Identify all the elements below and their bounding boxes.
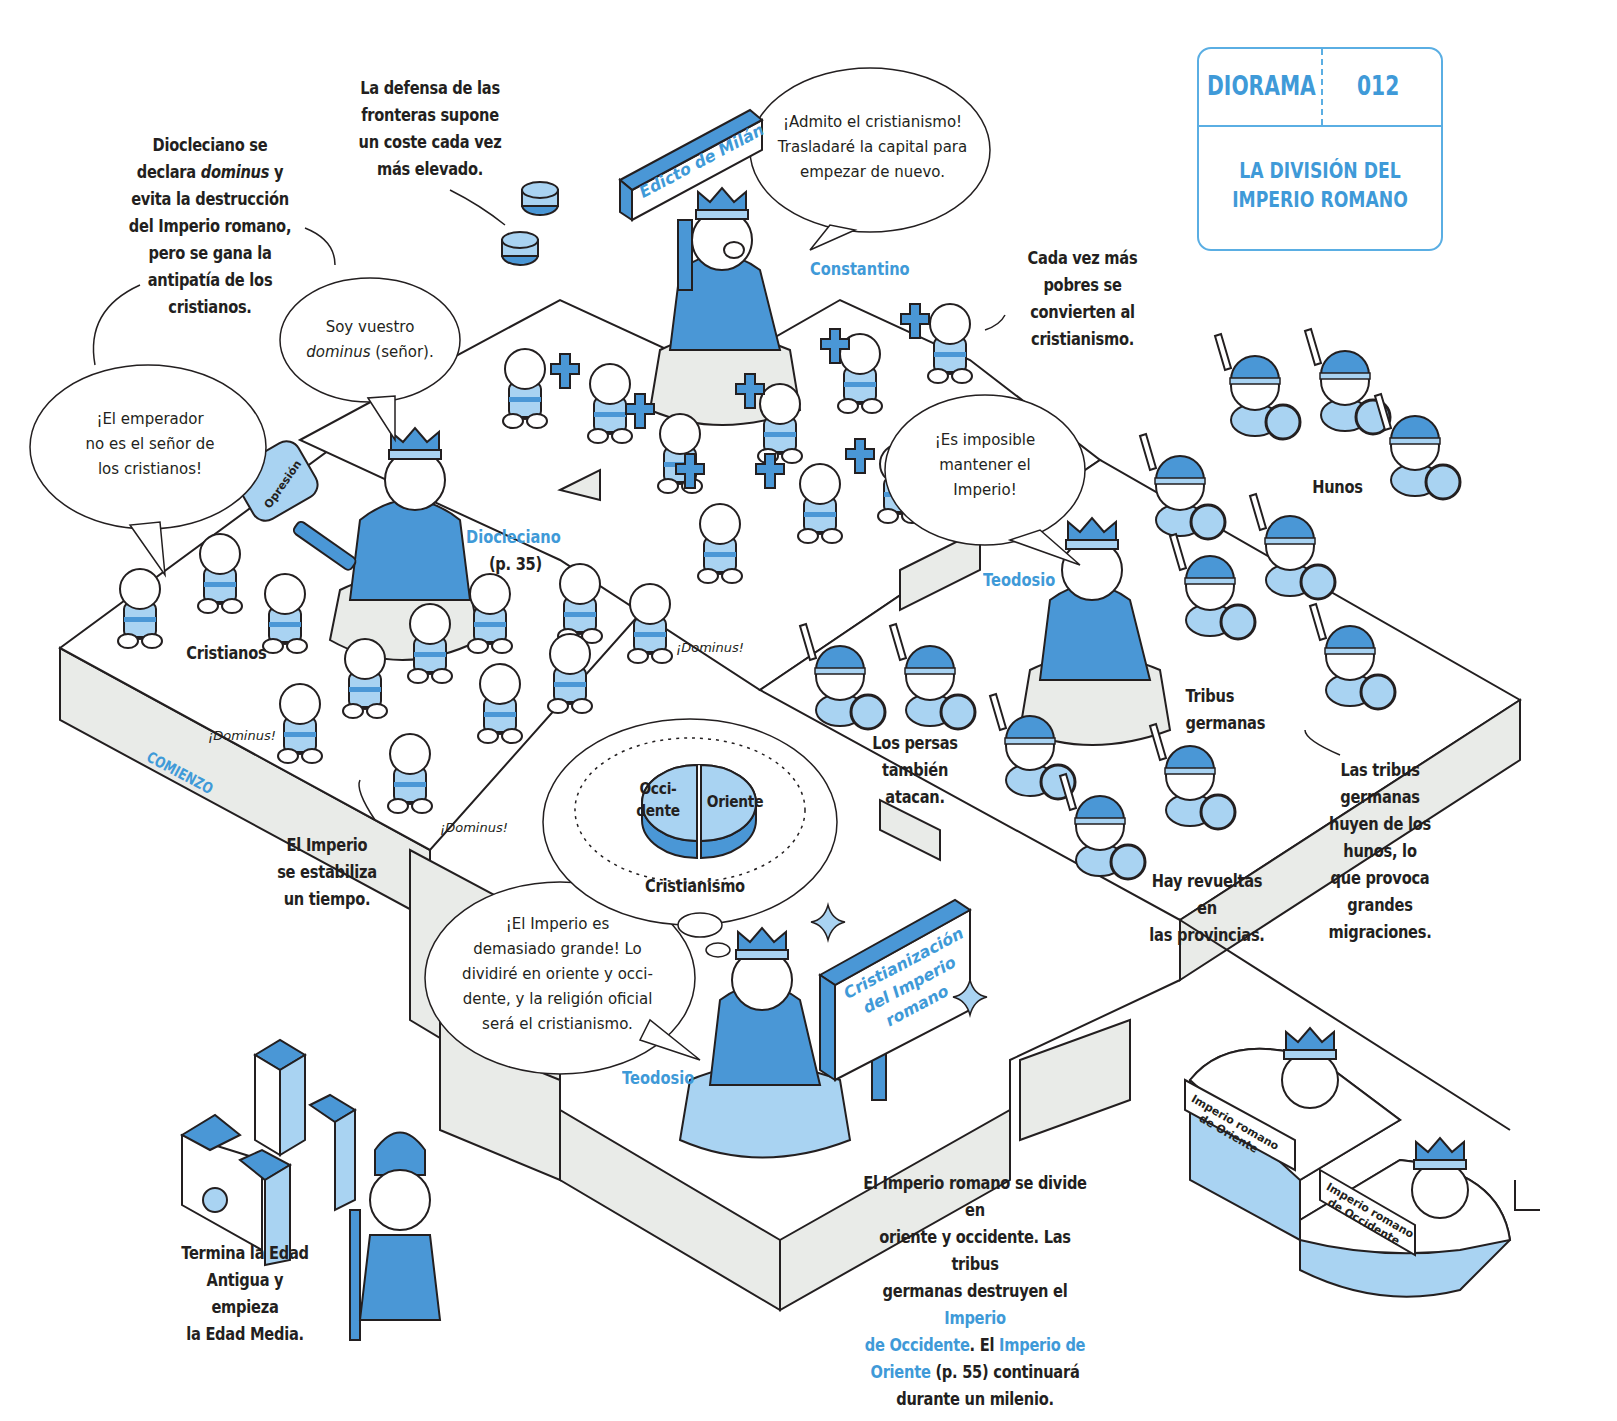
link-imperio-occidente: Imperio [944, 1308, 1006, 1328]
flying-money-icon [502, 182, 558, 265]
card-divider [1321, 49, 1323, 125]
label-teodosio-bottom: Teodosio [622, 1068, 694, 1088]
note-line: El Imperio [271, 832, 383, 859]
note-line: Oriente (p. 55) continuará [855, 1359, 1096, 1386]
note-line: La defensa de las [357, 75, 503, 102]
note-line: que provoca [1328, 865, 1431, 892]
note-line: germanas [1328, 784, 1431, 811]
note-line: Antigua y empieza [172, 1267, 318, 1321]
divided-empire-platforms [1185, 1028, 1510, 1297]
note-line: oriente y occidente. Las tribus [855, 1224, 1096, 1278]
shout-dominus: ¡Dominus! [208, 728, 276, 743]
note-line: Cada vez más [1024, 245, 1140, 272]
speech-line: dente, y la religión oficial [430, 987, 685, 1012]
note-line: pobres se [1024, 272, 1140, 299]
note-line: Diocleciano se [124, 132, 296, 159]
card-title-line: LA DIVISIÓN DEL [1221, 157, 1419, 186]
note-line: también atacan. [855, 757, 975, 811]
speech-teodosio-top: ¡Es imposible mantener el Imperio! [905, 428, 1065, 503]
card-kicker: DIORAMA [1207, 71, 1316, 101]
diorama-title-card: DIORAMA 012 LA DIVISIÓN DEL IMPERIO ROMA… [1197, 47, 1443, 251]
speech-line: dominus (señor). [285, 340, 455, 365]
note-edad-media: Termina la Edad Antigua y empieza la Eda… [172, 1240, 318, 1348]
card-header: DIORAMA 012 [1199, 49, 1441, 127]
label-diocleciano: Diocleciano [466, 527, 561, 547]
note-line: más elevado. [357, 156, 503, 183]
label-cristianos: Cristianos [186, 640, 263, 667]
note-line: El Imperio romano se divide en [855, 1170, 1096, 1224]
label-line: Occi- [624, 778, 693, 800]
speech-line: los cristianos! [40, 457, 260, 482]
note-line: un tiempo. [271, 886, 383, 913]
speech-emphasis: dominus [306, 343, 370, 361]
note-word: y [274, 162, 283, 182]
label-occidente-half: Occi- dente [624, 778, 693, 822]
shout-dominus: ¡Dominus! [676, 640, 744, 655]
note-persas: Los persas también atacan. [855, 730, 975, 811]
speech-line: será el cristianismo. [430, 1012, 685, 1037]
bishop-figure [350, 1133, 440, 1341]
note-line: un coste cada vez [357, 129, 503, 156]
note-line: cristianos. [124, 294, 296, 321]
note-line: las provincias. [1143, 922, 1272, 949]
card-title-line: IMPERIO ROMANO [1221, 186, 1419, 215]
speech-line: empezar de nuevo. [755, 160, 990, 185]
speech-diocleciano: Soy vuestro dominus (señor). [285, 315, 455, 365]
note-line: evita la destrucción [124, 186, 296, 213]
speech-line: ¡El emperador [40, 407, 260, 432]
note-line: cristianismo. [1024, 326, 1140, 353]
speech-line: no es el señor de [40, 432, 260, 457]
card-title: LA DIVISIÓN DEL IMPERIO ROMANO [1221, 157, 1419, 215]
note-line: migraciones. [1328, 919, 1431, 946]
note-defensa-fronteras: La defensa de las fronteras supone un co… [357, 75, 503, 183]
link-imperio-occidente: de Occidente [865, 1335, 970, 1355]
label-oriente-half: Oriente [696, 788, 773, 815]
note-word: germanas destruyen el [883, 1281, 1068, 1301]
link-imperio-oriente: Imperio de [999, 1335, 1085, 1355]
label-cristianismo: Cristianismo [639, 873, 751, 900]
note-division-imperio: El Imperio romano se divide en oriente y… [855, 1170, 1096, 1413]
label-tribus-germanas: Tribus germanas [1186, 683, 1315, 737]
note-emphasis: dominus [201, 162, 269, 182]
sparkle-icon [811, 905, 845, 940]
note-revueltas: Hay revueltas en las provincias. [1143, 868, 1272, 949]
note-migraciones: Las tribus germanas huyen de los hunos, … [1328, 757, 1431, 946]
note-line: declara dominus y [124, 159, 296, 186]
speech-line: mantener el [905, 453, 1065, 478]
speech-constantino: ¡Admito el cristianismo! Trasladaré la c… [755, 110, 990, 185]
label-line: dente [624, 800, 693, 822]
label-constantino: Constantino [810, 259, 910, 279]
speech-line: dividiré en oriente y occi- [430, 962, 685, 987]
note-line: de Occidente. El Imperio de [855, 1332, 1096, 1359]
link-imperio-oriente: Oriente [870, 1362, 930, 1382]
note-line: fronteras supone [357, 102, 503, 129]
note-pobres-cristianismo: Cada vez más pobres se convierten al cri… [1024, 245, 1140, 353]
note-line: hunos, lo [1328, 838, 1431, 865]
note-line: germanas destruyen el Imperio [855, 1278, 1096, 1332]
note-diocleciano: Diocleciano se declara dominus y evita l… [124, 132, 296, 321]
note-line: pero se gana la [124, 240, 296, 267]
label-teodosio-top: Teodosio [983, 570, 1055, 590]
note-imperio-estabiliza: El Imperio se estabiliza un tiempo. [271, 832, 383, 913]
note-line: Termina la Edad [172, 1240, 318, 1267]
speech-line: Soy vuestro [285, 315, 455, 340]
speech-line: demasiado grande! Lo [430, 937, 685, 962]
note-line: Los persas [855, 730, 975, 757]
note-line: se estabiliza [271, 859, 383, 886]
note-line: convierten al [1024, 299, 1140, 326]
note-line: durante un milenio. [855, 1386, 1096, 1413]
note-word: . El [970, 1335, 999, 1355]
speech-line: ¡El Imperio es [430, 912, 685, 937]
label-hunos: Hunos [1312, 474, 1364, 501]
note-line: grandes [1328, 892, 1431, 919]
note-word: (p. 55) continuará [931, 1362, 1080, 1382]
speech-word: (señor). [371, 343, 434, 361]
note-line: huyen de los [1328, 811, 1431, 838]
speech-line: ¡Admito el cristianismo! [755, 110, 990, 135]
speech-line: Imperio! [905, 478, 1065, 503]
note-line: Las tribus [1328, 757, 1431, 784]
speech-line: Trasladaré la capital para [755, 135, 990, 160]
speech-teodosio-bottom: ¡El Imperio es demasiado grande! Lo divi… [430, 912, 685, 1037]
note-word: declara [137, 162, 196, 182]
speech-line: ¡Es imposible [905, 428, 1065, 453]
